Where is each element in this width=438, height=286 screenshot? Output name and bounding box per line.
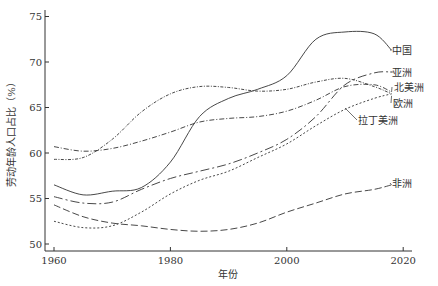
leader-line (345, 108, 357, 120)
series-label: 欧洲 (393, 98, 413, 109)
y-tick-label: 70 (29, 57, 42, 68)
y-tick-label: 55 (29, 193, 42, 204)
x-tick-label: 1960 (41, 255, 66, 266)
leader-line (391, 96, 392, 103)
y-ticks: 505560657075 (29, 11, 49, 250)
series-label: 中国 (392, 44, 412, 56)
x-axis-label: 年份 (218, 268, 238, 280)
y-tick-label: 50 (29, 239, 42, 250)
series-line-拉丁美洲 (54, 94, 392, 228)
series-lines (54, 31, 392, 231)
series-labels: 中国亚洲北美洲欧洲拉丁美洲非洲 (345, 44, 424, 189)
series-label: 非洲 (392, 178, 412, 189)
y-axis-label: 劳动年龄人口占比（%） (5, 77, 17, 187)
y-tick-label: 75 (29, 11, 42, 22)
y-tick-label: 65 (29, 102, 42, 113)
y-tick-label: 60 (29, 148, 42, 159)
x-ticks: 1960198020002020 (41, 247, 416, 266)
series-line-中国 (54, 31, 392, 195)
series-label: 北美洲 (394, 81, 424, 93)
x-tick-label: 2000 (274, 255, 299, 266)
series-line-亚洲 (54, 72, 392, 204)
series-line-非洲 (54, 185, 392, 231)
x-tick-label: 1980 (158, 255, 183, 266)
series-line-北美洲 (54, 84, 392, 151)
line-chart: 505560657075 1960198020002020 年份 劳动年龄人口占… (0, 0, 438, 286)
x-tick-label: 2020 (390, 255, 415, 266)
series-label: 拉丁美洲 (358, 114, 398, 126)
series-label: 亚洲 (392, 67, 412, 78)
axes (45, 10, 412, 251)
